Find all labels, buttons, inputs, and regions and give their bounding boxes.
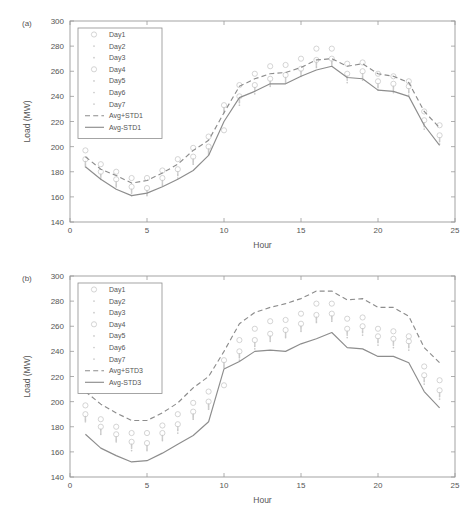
- legend-label: Day2: [109, 298, 125, 306]
- panel-label: (b): [22, 274, 32, 283]
- legend-label: Day3: [109, 54, 125, 62]
- y-axis-title: Load (MW): [22, 100, 32, 142]
- y-tick-label: 260: [51, 67, 65, 76]
- legend-label: Avg+STD3: [109, 367, 143, 375]
- x-tick-label: 15: [297, 481, 306, 490]
- y-tick-label: 160: [51, 193, 65, 202]
- legend-label: Day7: [109, 356, 125, 364]
- x-axis-title: Hour: [253, 240, 272, 250]
- legend-label: Day6: [109, 89, 125, 97]
- y-tick-label: 200: [51, 398, 65, 407]
- y-tick-label: 160: [51, 448, 65, 457]
- legend-label: Day6: [109, 344, 125, 352]
- legend-label: Day2: [109, 43, 125, 51]
- x-tick-label: 20: [374, 226, 383, 235]
- x-tick-label: 10: [220, 226, 229, 235]
- y-axis-title: Load (MW): [22, 355, 32, 397]
- panel-label: (a): [22, 19, 32, 28]
- chart-panel-b: (b)1401601802002202402602803000510152025…: [0, 255, 476, 509]
- x-tick-label: 5: [145, 481, 150, 490]
- legend-label: Day4: [109, 321, 125, 329]
- y-tick-label: 140: [51, 473, 65, 482]
- y-tick-label: 180: [51, 423, 65, 432]
- legend-label: Day3: [109, 309, 125, 317]
- legend-label: Avg+STD1: [109, 112, 143, 120]
- y-tick-label: 300: [51, 272, 65, 281]
- legend-label: Day1: [109, 31, 125, 39]
- y-tick-label: 260: [51, 322, 65, 331]
- legend-label: Day1: [109, 286, 125, 294]
- legend-label: Day4: [109, 66, 125, 74]
- legend-label: Avg-STD1: [109, 124, 141, 132]
- legend-label: Avg-STD3: [109, 379, 141, 387]
- legend-label: Day7: [109, 101, 125, 109]
- x-tick-label: 25: [451, 226, 460, 235]
- y-tick-label: 200: [51, 143, 65, 152]
- y-tick-label: 300: [51, 17, 65, 26]
- x-tick-label: 25: [451, 481, 460, 490]
- y-tick-label: 240: [51, 347, 65, 356]
- legend-label: Day5: [109, 332, 125, 340]
- x-tick-label: 10: [220, 481, 229, 490]
- y-tick-label: 140: [51, 218, 65, 227]
- y-tick-label: 240: [51, 92, 65, 101]
- x-tick-label: 0: [68, 226, 73, 235]
- y-tick-label: 180: [51, 168, 65, 177]
- x-tick-label: 5: [145, 226, 150, 235]
- y-tick-label: 220: [51, 373, 65, 382]
- x-tick-label: 0: [68, 481, 73, 490]
- x-tick-label: 20: [374, 481, 383, 490]
- legend-label: Day5: [109, 77, 125, 85]
- y-tick-label: 280: [51, 42, 65, 51]
- y-tick-label: 220: [51, 118, 65, 127]
- y-tick-label: 280: [51, 297, 65, 306]
- x-tick-label: 15: [297, 226, 306, 235]
- x-axis-title: Hour: [253, 495, 272, 505]
- chart-panel-a: (a)1401601802002202402602803000510152025…: [0, 0, 476, 254]
